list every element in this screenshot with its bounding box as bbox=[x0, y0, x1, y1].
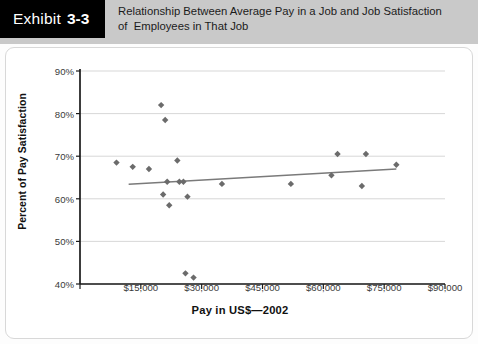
exhibit-header-band: Exhibit 3-3 Relationship Between Average… bbox=[0, 0, 478, 44]
exhibit-title-line-2: of Employees in That Job bbox=[118, 19, 468, 34]
data-points bbox=[113, 102, 399, 281]
data-point bbox=[146, 166, 152, 172]
exhibit-title-line-1: Relationship Between Average Pay in a Jo… bbox=[118, 4, 468, 19]
axis-ticks bbox=[76, 71, 445, 289]
data-point bbox=[160, 191, 166, 197]
exhibit-figure: Exhibit 3-3 Relationship Between Average… bbox=[0, 0, 478, 344]
data-point bbox=[182, 270, 188, 276]
exhibit-number-box: Exhibit 3-3 bbox=[0, 0, 105, 38]
data-point bbox=[288, 181, 294, 187]
exhibit-number: 3-3 bbox=[67, 10, 89, 28]
data-point bbox=[164, 179, 170, 185]
data-point bbox=[166, 202, 172, 208]
chart-panel: Percent of Pay Satisfaction Pay in US$—2… bbox=[5, 47, 473, 339]
data-point bbox=[359, 183, 365, 189]
data-point bbox=[130, 164, 136, 170]
data-point bbox=[174, 157, 180, 163]
exhibit-title: Relationship Between Average Pay in a Jo… bbox=[118, 4, 468, 34]
data-point bbox=[113, 159, 119, 165]
exhibit-label: Exhibit bbox=[13, 10, 61, 28]
data-point bbox=[158, 102, 164, 108]
gridlines bbox=[80, 71, 445, 284]
scatter-plot: Percent of Pay Satisfaction Pay in US$—2… bbox=[6, 48, 474, 340]
data-point bbox=[180, 179, 186, 185]
data-point bbox=[219, 181, 225, 187]
plot-canvas bbox=[6, 48, 474, 340]
data-point bbox=[162, 117, 168, 123]
data-point bbox=[190, 274, 196, 280]
data-point bbox=[393, 162, 399, 168]
